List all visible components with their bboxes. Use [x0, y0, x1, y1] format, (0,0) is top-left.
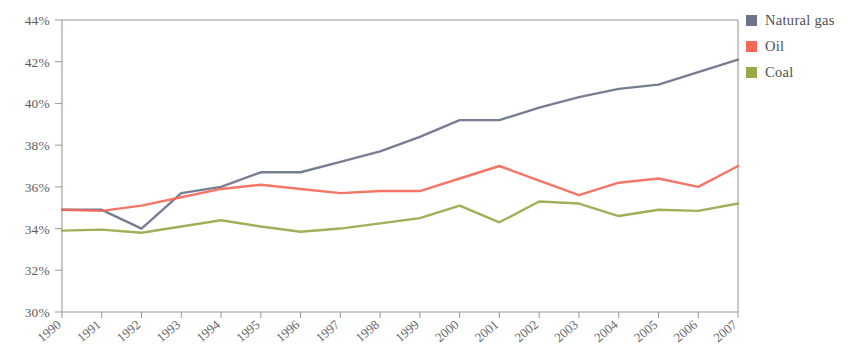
- legend-label: Oil: [765, 38, 784, 54]
- x-tick-label: 2005: [631, 317, 661, 345]
- legend-label: Coal: [765, 64, 794, 80]
- x-tick-label: 2000: [432, 317, 462, 345]
- x-tick-label: 1992: [114, 317, 144, 345]
- legend-swatch: [746, 41, 757, 52]
- x-tick-label: 2006: [671, 316, 701, 345]
- x-tick-label: 2007: [710, 316, 740, 345]
- series-group: [62, 60, 738, 233]
- x-tick-label: 2003: [551, 317, 581, 345]
- legend-swatch: [746, 15, 757, 26]
- x-tick-label: 1997: [313, 316, 343, 345]
- x-tick-label: 2004: [591, 316, 621, 345]
- legend-swatch: [746, 67, 757, 78]
- x-tick-group: 1990199119921993199419951996199719981999…: [34, 312, 740, 345]
- y-tick-label: 40%: [25, 96, 50, 111]
- x-tick-label: 1995: [233, 317, 263, 345]
- chart-legend: Natural gasOilCoal: [746, 12, 835, 80]
- y-axis: 44%42%40%38%36%34%32%30%: [25, 13, 62, 320]
- x-tick-label: 1996: [273, 316, 303, 345]
- y-tick-label: 34%: [25, 222, 50, 237]
- series-line-oil: [62, 166, 738, 211]
- y-tick-label: 36%: [25, 180, 50, 195]
- x-tick-label: 1999: [392, 317, 422, 345]
- series-line-coal: [62, 201, 738, 232]
- legend-label: Natural gas: [765, 12, 835, 28]
- y-tick-group: 44%42%40%38%36%34%32%30%: [25, 13, 62, 320]
- x-tick-label: 1993: [154, 317, 184, 345]
- x-tick-label: 2001: [472, 317, 502, 345]
- chart-canvas: 44%42%40%38%36%34%32%30% 199019911992199…: [0, 0, 865, 363]
- y-tick-label: 44%: [25, 13, 50, 28]
- line-chart: 44%42%40%38%36%34%32%30% 199019911992199…: [0, 0, 865, 363]
- x-tick-label: 1991: [74, 317, 104, 345]
- y-tick-label: 38%: [25, 138, 50, 153]
- x-tick-label: 1990: [34, 317, 64, 345]
- x-tick-label: 1998: [352, 317, 382, 345]
- y-tick-label: 32%: [25, 263, 50, 278]
- x-tick-label: 1994: [193, 316, 223, 345]
- x-tick-label: 2002: [512, 317, 542, 345]
- x-axis: 1990199119921993199419951996199719981999…: [34, 20, 740, 345]
- y-tick-label: 42%: [25, 55, 50, 70]
- y-tick-label: 30%: [25, 305, 50, 320]
- series-line-natural-gas: [62, 60, 738, 229]
